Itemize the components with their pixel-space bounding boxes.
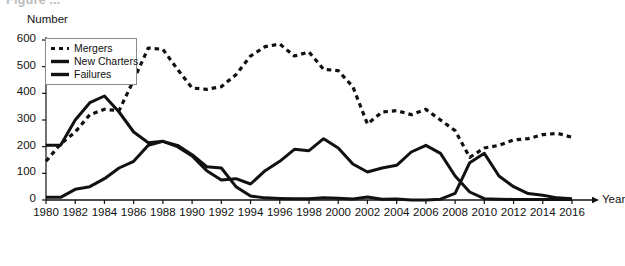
legend-label-mergers: Mergers [74,43,113,54]
legend-item-new-charters: New Charters [50,55,132,68]
legend-label-new-charters: New Charters [74,56,138,67]
legend-item-failures: Failures [50,68,132,81]
chart-legend: Mergers New Charters Failures [45,38,137,85]
x-axis-label: Year [602,193,625,205]
y-tick-label: 300 [2,112,36,124]
y-tick-label: 200 [2,139,36,151]
y-tick-label: 400 [2,85,36,97]
y-tick-label: 0 [2,192,36,204]
legend-swatch-dashed-icon [50,43,70,54]
y-tick-label: 500 [2,59,36,71]
legend-swatch-solid-2-icon [50,69,70,80]
y-tick-label: 600 [2,32,36,44]
legend-swatch-solid-icon [50,56,70,67]
legend-label-failures: Failures [74,69,111,80]
y-tick-label: 100 [2,165,36,177]
x-tick-label: 2016 [555,206,589,218]
legend-item-mergers: Mergers [50,42,132,55]
